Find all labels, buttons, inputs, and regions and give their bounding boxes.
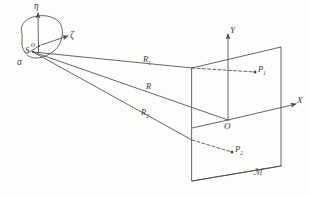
S-marker (32, 51, 34, 53)
P2-subscript: 2 (240, 150, 243, 156)
X-axis-label: X (297, 96, 303, 105)
P2-marker (231, 151, 234, 154)
sigma-area-label: σ (17, 58, 22, 68)
ray-R1-label: R1 (143, 55, 151, 66)
ray-R1-dashed-to-P1 (192, 68, 255, 72)
ray-R2-subscript: 2 (146, 113, 149, 119)
X-axis-line (228, 104, 296, 120)
zeta-axis-label: ζ (70, 31, 74, 41)
ray-R2-label: R2 (141, 108, 149, 119)
P1-marker (254, 71, 257, 74)
receiving-plane-outline (192, 47, 281, 181)
eta-axis-label: η (34, 2, 39, 12)
P1-label: P1 (258, 65, 266, 76)
ray-R-letter: R (146, 81, 151, 91)
patch-origin-label: o (31, 41, 35, 49)
ray-R2-dashed-to-P2 (192, 140, 232, 152)
plane-foot-edge (192, 166, 281, 181)
figure-root: η ζ o S σ R1 R R2 Y X O P1 P2 ℳ (0, 0, 310, 197)
receiving-plane-label: ℳ (253, 168, 263, 177)
ray-R-label: R (146, 82, 151, 93)
plane-origin-label: O (224, 122, 231, 131)
P1-subscript: 1 (263, 70, 266, 76)
zeta-axis-line (41, 36, 68, 45)
source-point-label: S (25, 46, 29, 55)
diagram-canvas (0, 0, 310, 197)
X-axis-left-segment (192, 120, 228, 128)
Y-axis-label: Y (230, 26, 235, 35)
ray-R1-subscript: 1 (148, 60, 151, 66)
o-marker (38, 45, 40, 47)
P2-label: P2 (235, 145, 243, 156)
